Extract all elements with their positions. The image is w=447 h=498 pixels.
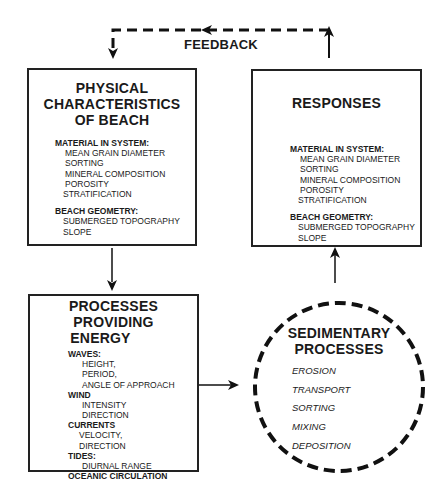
list-item: SORTING (300, 164, 420, 174)
processes-title-line: PROCESSES PROVIDING (30, 298, 197, 330)
list-item: SLOPE (298, 233, 420, 243)
list-item: MINERAL COMPOSITION (300, 175, 420, 185)
physical-title: PHYSICAL CHARACTERISTICS OF BEACH (29, 80, 195, 128)
list-item: STRATIFICATION (63, 189, 195, 199)
list-item: TRANSPORT (292, 381, 399, 400)
list-item: MEAN GRAIN DIAMETER (300, 154, 420, 164)
section-heading: MATERIAL IN SYSTEM: (55, 138, 195, 148)
responses-sections: MATERIAL IN SYSTEM: MEAN GRAIN DIAMETER … (290, 144, 420, 243)
sedimentary-processes: SEDIMENTARY PROCESSES EROSION TRANSPORT … (279, 325, 399, 456)
list-item: SUBMERGED TOPOGRAPHY (298, 222, 420, 232)
physical-characteristics-box: PHYSICAL CHARACTERISTICS OF BEACH MATERI… (27, 68, 197, 246)
list-item: SORTING (292, 399, 399, 418)
arrow-sedimentary-to-responses (330, 247, 340, 283)
physical-title-line: OF BEACH (29, 112, 195, 128)
list-item: POROSITY (65, 179, 195, 189)
section-heading: WIND (68, 390, 197, 400)
section-heading: BEACH GEOMETRY: (290, 212, 420, 222)
list-item: DEPOSITION (292, 437, 399, 456)
list-item: SLOPE (63, 227, 195, 237)
physical-sections: MATERIAL IN SYSTEM: MEAN GRAIN DIAMETER … (55, 138, 195, 237)
section-heading: OCEANIC CIRCULATION (68, 471, 197, 481)
list-item: EROSION (292, 362, 399, 381)
section-heading: CURRENTS (68, 420, 197, 430)
list-item: DIRECTION (79, 441, 197, 451)
list-item: POROSITY (300, 185, 420, 195)
responses-title: RESPONSES (253, 95, 420, 111)
sedimentary-title-line: PROCESSES (279, 341, 399, 357)
section-heading: TIDES: (68, 451, 197, 461)
list-item: ANGLE OF APPROACH (82, 380, 197, 390)
physical-title-line: PHYSICAL (29, 80, 195, 96)
arrow-processes-to-sedimentary (198, 380, 239, 390)
list-item: DIRECTION (82, 410, 197, 420)
processes-title: PROCESSES PROVIDING ENERGY (30, 298, 197, 346)
sedimentary-items: EROSION TRANSPORT SORTING MIXING DEPOSIT… (292, 362, 399, 456)
physical-title-line: CHARACTERISTICS (29, 96, 195, 112)
responses-box: RESPONSES MATERIAL IN SYSTEM: MEAN GRAIN… (251, 69, 422, 247)
processes-sections: WAVES: HEIGHT, PERIOD, ANGLE OF APPROACH… (68, 349, 197, 481)
list-item: STRATIFICATION (298, 195, 420, 205)
list-item: MINERAL COMPOSITION (65, 169, 195, 179)
section-heading: WAVES: (68, 349, 197, 359)
list-item: INTENSITY (82, 400, 197, 410)
section-heading: MATERIAL IN SYSTEM: (290, 144, 420, 154)
sedimentary-title-line: SEDIMENTARY (279, 325, 399, 341)
list-item: MEAN GRAIN DIAMETER (65, 148, 195, 158)
list-item: HEIGHT, (82, 359, 197, 369)
processes-title-line: ENERGY (4, 330, 197, 346)
processes-providing-energy-box: PROCESSES PROVIDING ENERGY WAVES: HEIGHT… (28, 294, 199, 472)
feedback-label: FEEDBACK (176, 37, 266, 53)
list-item: VELOCITY, (79, 430, 197, 440)
list-item: SORTING (65, 158, 195, 168)
list-item: SUBMERGED TOPOGRAPHY (63, 216, 195, 226)
list-item: DIURNAL RANGE (82, 461, 197, 471)
sedimentary-title: SEDIMENTARY PROCESSES (279, 325, 399, 357)
list-item: MIXING (292, 418, 399, 437)
arrow-physical-to-processes (107, 248, 117, 291)
section-heading: BEACH GEOMETRY: (55, 206, 195, 216)
list-item: PERIOD, (82, 369, 197, 379)
